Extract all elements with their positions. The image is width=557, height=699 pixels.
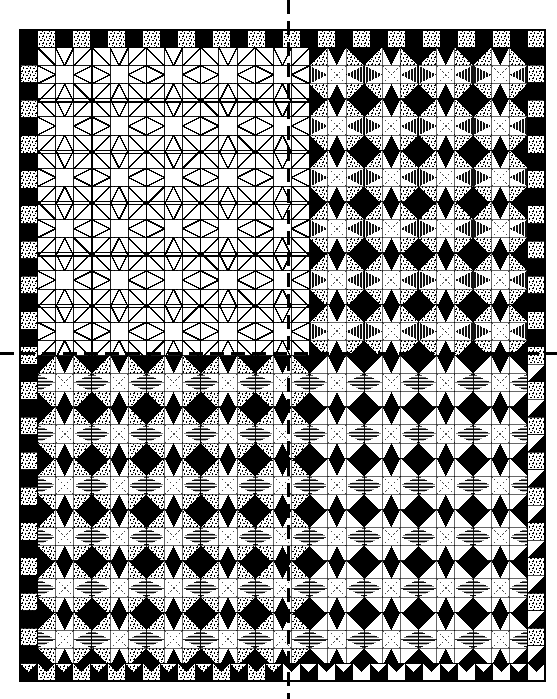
- border-unit: [20, 188, 38, 206]
- border-unit: [20, 399, 38, 417]
- quilt-block: [255, 458, 309, 512]
- quilt-block: [38, 458, 92, 512]
- quilt-block: [310, 304, 364, 358]
- border-unit: [20, 364, 38, 382]
- quilt-block: [419, 253, 473, 307]
- quilt-block: [146, 407, 200, 461]
- border-unit: [20, 646, 38, 664]
- quilt-block: [38, 561, 92, 615]
- quilt-block: [310, 202, 364, 256]
- quilt-block: [364, 612, 418, 666]
- border-unit: [528, 487, 546, 505]
- quilt-block: [364, 48, 418, 102]
- border-unit: [493, 30, 511, 48]
- quilt-block: [92, 561, 146, 615]
- quilt-block: [310, 253, 364, 307]
- border-unit: [528, 224, 546, 242]
- border-unit: [20, 118, 38, 136]
- border-unit: [20, 48, 38, 66]
- border-unit: [20, 628, 38, 646]
- border-unit: [528, 100, 546, 118]
- quilt-block: [201, 458, 255, 512]
- border-unit: [528, 558, 546, 576]
- border-unit: [20, 100, 38, 118]
- quilt-block: [364, 561, 418, 615]
- border-unit: [510, 30, 528, 48]
- border-unit: [440, 30, 458, 48]
- quilt-block: [364, 510, 418, 564]
- quilt-block: [473, 48, 527, 102]
- border-unit: [528, 523, 546, 541]
- border-unit: [90, 30, 108, 48]
- border-unit: [20, 83, 38, 101]
- border-unit: [283, 30, 301, 48]
- quilt-block: [364, 458, 418, 512]
- quilt-block: [364, 407, 418, 461]
- quilt-block: [310, 150, 364, 204]
- border-unit: [475, 30, 493, 48]
- border-unit: [20, 312, 38, 330]
- quilt-block: [201, 612, 255, 666]
- border-unit: [20, 611, 38, 629]
- quilt-block: [473, 202, 527, 256]
- border-unit: [55, 30, 73, 48]
- border-unit: [20, 470, 38, 488]
- border-unit: [528, 65, 546, 83]
- border-unit: [230, 30, 248, 48]
- quilt-block: [310, 612, 364, 666]
- border-unit: [20, 259, 38, 277]
- border-unit: [248, 30, 266, 48]
- border-unit: [20, 294, 38, 312]
- quilt-pattern-diagram: [0, 0, 557, 699]
- quilt-block: [473, 612, 527, 666]
- border-unit: [20, 505, 38, 523]
- border-unit: [528, 294, 546, 312]
- quilt-block: [201, 407, 255, 461]
- border-unit: [528, 417, 546, 435]
- border-unit: [388, 30, 406, 48]
- quilt-block: [364, 150, 418, 204]
- quilt-block: [473, 253, 527, 307]
- quilt-block: [92, 407, 146, 461]
- border-unit: [335, 30, 353, 48]
- quilt-block: [310, 458, 364, 512]
- quilt-block: [364, 99, 418, 153]
- border-unit: [405, 30, 423, 48]
- border-unit: [195, 30, 213, 48]
- border-unit: [318, 30, 336, 48]
- border-unit: [528, 312, 546, 330]
- quilt-block: [92, 356, 146, 410]
- quilt-block: [419, 202, 473, 256]
- border-unit: [20, 487, 38, 505]
- border-unit: [528, 259, 546, 277]
- quilt-block: [419, 510, 473, 564]
- quilt-block: [38, 612, 92, 666]
- quilt-block: [419, 458, 473, 512]
- quilt-block: [92, 510, 146, 564]
- border-unit: [20, 558, 38, 576]
- border-unit: [20, 593, 38, 611]
- border-unit: [20, 171, 38, 189]
- quilt-block: [146, 612, 200, 666]
- border-unit: [528, 48, 546, 66]
- border-unit: [20, 540, 38, 558]
- quilt-block: [419, 304, 473, 358]
- border-unit: [528, 136, 546, 154]
- quilt-block: [255, 510, 309, 564]
- quilt-block: [419, 407, 473, 461]
- border-unit: [213, 30, 231, 48]
- quilt-block: [255, 356, 309, 410]
- border-unit: [370, 30, 388, 48]
- border-unit: [300, 30, 318, 48]
- quilt-block: [38, 510, 92, 564]
- quilt-block: [473, 561, 527, 615]
- quilt-block: [310, 99, 364, 153]
- border-unit: [528, 118, 546, 136]
- border-unit: [20, 452, 38, 470]
- border-unit: [125, 30, 143, 48]
- quilt-block: [201, 356, 255, 410]
- border-unit: [20, 206, 38, 224]
- border-unit: [20, 329, 38, 347]
- border-unit: [265, 30, 283, 48]
- border-unit: [353, 30, 371, 48]
